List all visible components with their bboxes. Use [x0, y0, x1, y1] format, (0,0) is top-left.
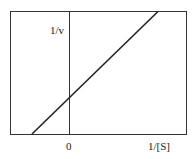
y-axis-label: 1/v: [50, 24, 65, 36]
lineweaver-burk-chart: 1/v 0 1/[S]: [0, 0, 196, 159]
x-axis-label: 1/[S]: [148, 140, 170, 152]
plot-frame: [11, 12, 187, 135]
x-tick-zero: 0: [66, 140, 72, 152]
